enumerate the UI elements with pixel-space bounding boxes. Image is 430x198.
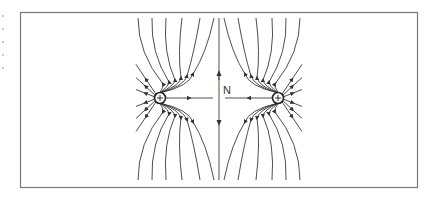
field-lines-diagram [0,0,430,198]
field-line [263,18,277,93]
field-line [275,18,300,93]
field-line [283,78,302,96]
field-line [136,90,155,97]
field-line [162,104,214,181]
field-line [263,104,277,181]
field-line [224,104,276,181]
field-line [162,18,214,93]
field-line [136,78,155,96]
field-line [161,104,175,181]
field-line [161,18,175,93]
field-line [136,64,156,94]
field-line [136,101,155,119]
field-line [283,90,302,97]
neutral-point-label: N [223,84,231,96]
field-line [136,99,155,106]
field-line [283,99,302,106]
field-line [283,101,302,119]
field-line [161,18,182,93]
field-line [138,104,163,181]
field-line [138,18,163,93]
field-line [256,18,277,93]
field-line [161,104,182,181]
field-line [256,104,277,181]
field-line [275,104,300,181]
field-line [224,18,276,93]
field-line [282,64,302,94]
